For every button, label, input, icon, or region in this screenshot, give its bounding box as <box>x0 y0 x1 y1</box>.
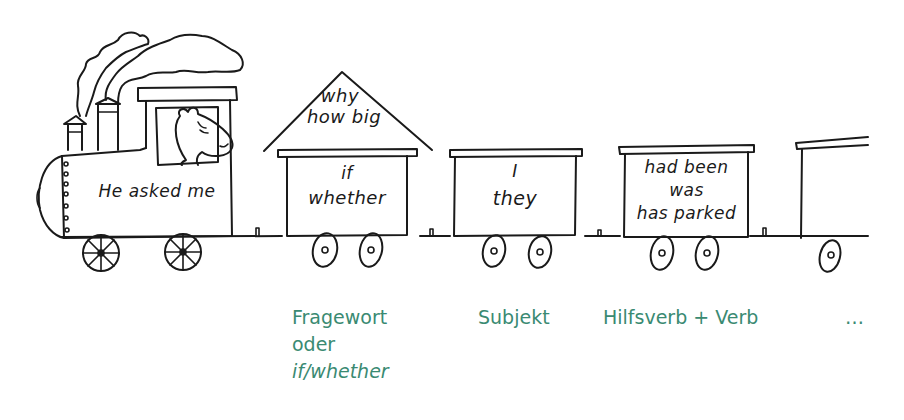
locomotive-text: He asked me <box>82 182 232 202</box>
wagon-2-line-1: I <box>455 162 575 182</box>
label-question-word-line-1: Fragewort <box>292 304 389 331</box>
wagon-1-line-1: if <box>287 164 407 184</box>
word-order-train-diagram: He asked me why how big if whether I the… <box>0 0 904 420</box>
label-subject: Subjekt <box>478 304 550 331</box>
label-question-word-line-3: if/whether <box>292 358 389 385</box>
wagon-1-roof-line-2: how big <box>284 107 404 128</box>
wagon-2-line-2: they <box>455 188 575 210</box>
label-subject-line-1: Subjekt <box>478 304 550 331</box>
wagon-3-line-2: was <box>625 181 748 201</box>
wagon-1-line-2: whether <box>287 188 407 209</box>
label-auxiliary-verb: Hilfsverb + Verb <box>603 304 758 331</box>
wagon-1-roof-line-1: why <box>300 86 380 107</box>
wagon-3-line-1: had been <box>625 158 748 178</box>
label-auxiliary-verb-line-1: Hilfsverb + Verb <box>603 304 758 331</box>
locomotive-wheels <box>83 234 201 271</box>
label-ellipsis: … <box>845 304 864 331</box>
wagon-3-line-3: has parked <box>625 204 748 224</box>
label-question-word: Fragewort oder if/whether <box>292 304 389 385</box>
train-drawing <box>0 0 904 420</box>
locomotive-icon <box>37 33 243 271</box>
wagon-4-drawing <box>796 137 868 274</box>
label-question-word-line-2: oder <box>292 331 389 358</box>
label-ellipsis-line-1: … <box>845 304 864 331</box>
